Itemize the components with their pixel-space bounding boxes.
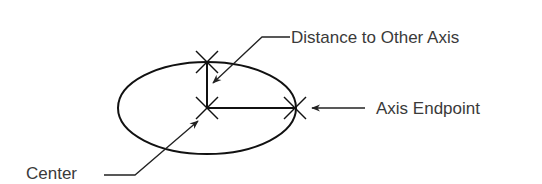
distance-leader-arrow	[213, 37, 290, 83]
endpoint-label: Axis Endpoint	[376, 99, 480, 118]
distance-label: Distance to Other Axis	[291, 28, 459, 47]
center-leader-arrow	[104, 121, 198, 175]
ellipse-diagram: Distance to Other Axis Axis Endpoint Cen…	[0, 0, 542, 184]
center-label: Center	[26, 164, 77, 183]
